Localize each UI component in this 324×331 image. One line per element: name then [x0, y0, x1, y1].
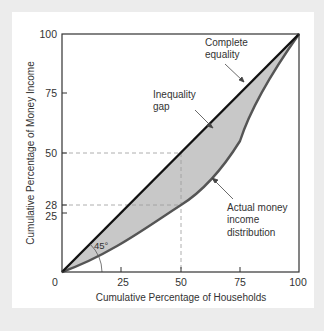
complete-equality-label-line1: Complete: [205, 37, 248, 48]
arrowhead: [212, 178, 218, 183]
actual-distribution-label-line3: distribution: [227, 227, 275, 238]
x-tick-label-50: 50: [175, 276, 187, 288]
actual-distribution-arrow: [215, 181, 233, 199]
x-tick-label-25: 25: [117, 276, 129, 288]
inequality-gap-label-line1: Inequality: [153, 89, 196, 100]
y-tick-label-75: 75: [45, 87, 57, 99]
x-axis-title: Cumulative Percentage of Households: [96, 292, 267, 303]
actual-distribution-label-line1: Actual money: [227, 202, 288, 213]
x-tick-label-75: 75: [234, 276, 246, 288]
y-tick-label-100: 100: [39, 28, 57, 40]
complete-equality-label-line2: equality: [205, 49, 239, 60]
x-tick-label-100: 100: [289, 276, 307, 288]
x-tick-label-0: 0: [52, 276, 58, 288]
angle-label: 45°: [94, 240, 109, 251]
actual-distribution-label-line2: income: [227, 214, 260, 225]
y-axis-title: Cumulative Percentage of Money Income: [25, 61, 36, 245]
y-tick-label-25: 25: [45, 210, 57, 222]
inequality-gap-label-line2: gap: [153, 101, 170, 112]
lorenz-chart: 100 75 50 28 25 0 25 50 75 100 Cumulativ…: [0, 0, 324, 331]
inequality-gap-arrow: [195, 110, 210, 125]
y-tick-label-50: 50: [45, 147, 57, 159]
